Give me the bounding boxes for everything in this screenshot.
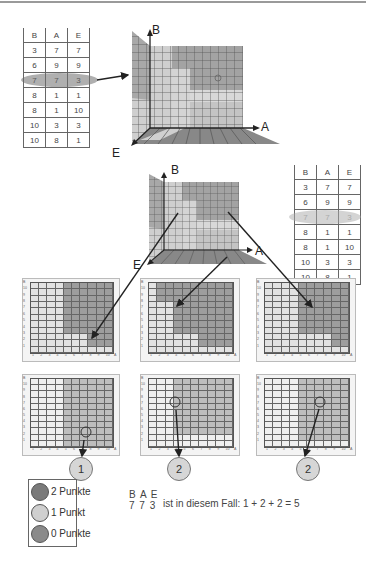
y-tick-label: 5 bbox=[141, 413, 143, 417]
table-header: E bbox=[339, 165, 361, 180]
x-tick-label: A bbox=[114, 447, 116, 451]
x-tick-label: 3 bbox=[283, 447, 285, 451]
cube-3d-middle: B A E bbox=[147, 172, 272, 267]
x-tick-label: 2 bbox=[274, 353, 276, 357]
y-tick-label: 8 bbox=[141, 299, 143, 303]
x-tick-label: 2 bbox=[158, 353, 160, 357]
x-tick-label: 5 bbox=[65, 353, 67, 357]
axis-label-b: B bbox=[171, 163, 179, 177]
x-tick-label: 4 bbox=[57, 447, 59, 451]
x-tick-label: 4 bbox=[175, 447, 177, 451]
table-cell: 10 bbox=[24, 133, 46, 148]
score-circle-1: 1 bbox=[69, 457, 93, 481]
table-cell: 7 bbox=[317, 180, 339, 195]
table-cell: 9 bbox=[68, 58, 90, 73]
points-legend: 2 Punkte 1 Punkt 0 Punkte bbox=[28, 479, 77, 547]
x-tick-label: 8 bbox=[325, 447, 327, 451]
data-table-right: B A E 377 699 773 811 8110 1033 1081 bbox=[294, 165, 361, 285]
y-tick-label: 8 bbox=[23, 299, 25, 303]
y-tick-label: 4 bbox=[23, 325, 25, 329]
table-cell: 8 bbox=[295, 225, 317, 240]
y-tick-label: 4 bbox=[257, 325, 259, 329]
highlight-oval-top bbox=[21, 73, 98, 87]
x-tick-label: 10 bbox=[342, 353, 346, 357]
grid-cells bbox=[148, 282, 234, 354]
x-tick-label: 1 bbox=[32, 353, 34, 357]
y-tick-label: 3 bbox=[257, 331, 259, 335]
table-cell: 1 bbox=[317, 240, 339, 255]
x-tick-label: 3 bbox=[167, 447, 169, 451]
x-tick-label: 8 bbox=[89, 447, 91, 451]
y-tick-label: 8 bbox=[257, 299, 259, 303]
y-tick-label: 7 bbox=[141, 305, 143, 309]
grid-slice-5: B1098765432112345678910A bbox=[140, 374, 238, 454]
x-tick-label: 7 bbox=[200, 447, 202, 451]
legend-item: 1 Punkt bbox=[31, 502, 85, 523]
y-tick-label: 3 bbox=[257, 425, 259, 429]
data-table-top: B A E 377 699 773 811 8110 1033 1081 bbox=[23, 28, 90, 148]
x-tick-label: 6 bbox=[308, 353, 310, 357]
grid-slice-6: B1098765432112345678910A bbox=[256, 374, 354, 454]
x-tick-label: 8 bbox=[209, 447, 211, 451]
x-tick-label: 6 bbox=[73, 447, 75, 451]
x-tick-label: 7 bbox=[200, 353, 202, 357]
y-tick-label: 4 bbox=[23, 419, 25, 423]
y-tick-label: 9 bbox=[257, 293, 259, 297]
grid-slice-4: B1098765432112345678910A bbox=[22, 374, 118, 454]
y-tick-label: 7 bbox=[141, 401, 143, 405]
y-tick-label: 6 bbox=[23, 312, 25, 316]
x-tick-label: 6 bbox=[192, 353, 194, 357]
x-tick-label: 6 bbox=[192, 447, 194, 451]
x-tick-label: 2 bbox=[40, 447, 42, 451]
x-tick-label: 5 bbox=[184, 447, 186, 451]
table-header: E bbox=[68, 28, 90, 43]
y-tick-label: 1 bbox=[257, 438, 259, 442]
table-cell: 3 bbox=[339, 255, 361, 270]
y-tick-label: 8 bbox=[141, 395, 143, 399]
y-tick-label: 10 bbox=[257, 286, 261, 290]
y-tick-label: B bbox=[257, 280, 259, 284]
example-values-row: 7 7 3 bbox=[129, 500, 158, 511]
y-tick-label: 2 bbox=[23, 337, 25, 341]
x-tick-label: 7 bbox=[316, 447, 318, 451]
y-tick-label: 10 bbox=[141, 382, 145, 386]
y-tick-label: 4 bbox=[141, 325, 143, 329]
axis-label-e: E bbox=[133, 258, 141, 272]
x-tick-label: 1 bbox=[150, 353, 152, 357]
neutral-face-icon bbox=[31, 504, 49, 522]
table-cell: 10 bbox=[339, 240, 361, 255]
x-tick-label: 3 bbox=[283, 353, 285, 357]
x-tick-label: 1 bbox=[150, 447, 152, 451]
grid-cells bbox=[148, 378, 234, 448]
y-tick-label: 6 bbox=[141, 312, 143, 316]
score-circle-2: 2 bbox=[167, 457, 191, 481]
table-cell: 9 bbox=[317, 195, 339, 210]
x-tick-label: 7 bbox=[316, 353, 318, 357]
x-tick-label: 4 bbox=[175, 353, 177, 357]
table-cell: 7 bbox=[46, 43, 68, 58]
table-cell: 1 bbox=[68, 133, 90, 148]
y-tick-label: B bbox=[141, 376, 143, 380]
legend-label: 2 Punkte bbox=[51, 486, 90, 497]
x-tick-label: 10 bbox=[106, 353, 110, 357]
y-tick-label: 1 bbox=[141, 344, 143, 348]
x-tick-label: 9 bbox=[98, 353, 100, 357]
legend-label: 1 Punkt bbox=[51, 507, 85, 518]
y-tick-label: 4 bbox=[257, 419, 259, 423]
y-tick-label: B bbox=[23, 280, 25, 284]
axis-label-a: A bbox=[261, 120, 269, 134]
x-tick-label: 9 bbox=[333, 353, 335, 357]
x-tick-label: 8 bbox=[89, 353, 91, 357]
x-tick-label: 6 bbox=[73, 353, 75, 357]
y-tick-label: 1 bbox=[23, 438, 25, 442]
table-cell: 8 bbox=[24, 88, 46, 103]
x-tick-label: 8 bbox=[209, 353, 211, 357]
y-tick-label: 5 bbox=[257, 318, 259, 322]
x-tick-label: A bbox=[234, 447, 236, 451]
cube-3d-top: B A E bbox=[130, 28, 285, 148]
table-cell: 9 bbox=[46, 58, 68, 73]
y-tick-label: 7 bbox=[23, 305, 25, 309]
y-tick-label: 10 bbox=[23, 286, 27, 290]
x-tick-label: A bbox=[114, 353, 116, 357]
table-cell: 1 bbox=[46, 103, 68, 118]
